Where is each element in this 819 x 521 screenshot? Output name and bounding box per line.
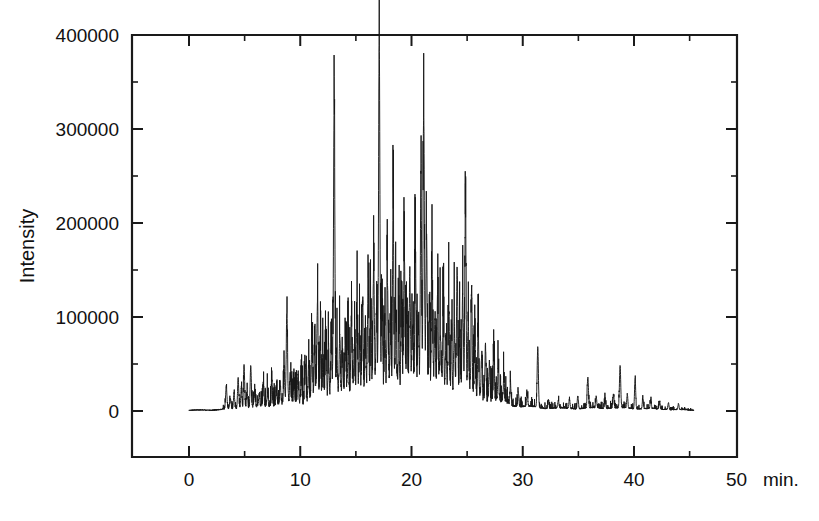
- y-axis-title: Intensity: [16, 209, 38, 283]
- x-ticklabel-2: 20: [401, 469, 422, 490]
- chart-canvas: 010000020000030000040000001020304050min.…: [0, 0, 819, 521]
- x-ticklabel-1: 10: [290, 469, 311, 490]
- y-ticklabel-4: 400000: [56, 25, 119, 46]
- y-ticklabel-2: 200000: [56, 213, 119, 234]
- data-trace-group: [189, 0, 694, 411]
- x-ticklabel-0: 0: [184, 469, 195, 490]
- y-ticklabel-0: 0: [108, 401, 119, 422]
- axis-ticks-group: [132, 35, 737, 457]
- x-axis-unit-label: min.: [763, 469, 799, 490]
- plot-frame: [132, 35, 737, 457]
- chromatogram-figure: 010000020000030000040000001020304050min.…: [0, 0, 819, 521]
- x-ticklabel-4: 40: [623, 469, 644, 490]
- axis-labels-group: 010000020000030000040000001020304050min.…: [16, 25, 799, 490]
- chromatogram-trace: [189, 0, 694, 411]
- axes-group: [132, 35, 737, 457]
- y-ticklabel-1: 100000: [56, 307, 119, 328]
- y-ticklabel-3: 300000: [56, 119, 119, 140]
- x-ticklabel-5: 50: [726, 469, 747, 490]
- x-ticklabel-3: 30: [512, 469, 533, 490]
